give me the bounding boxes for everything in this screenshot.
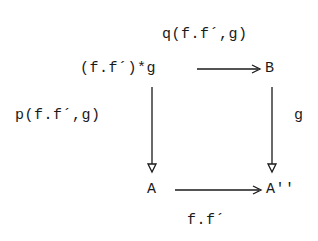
node-top-right: B [265,61,275,77]
bottom-arrow [175,186,261,194]
bottom-edge-label: f.f´ [187,213,225,229]
node-bottom-right: A'' [266,182,295,198]
left-arrow [148,87,156,172]
right-arrow [268,87,276,172]
node-bottom-left: A [147,182,157,198]
top-arrow [197,65,260,73]
right-edge-label: g [294,108,304,124]
node-top-left: (f.f´)*g [80,61,156,77]
top-edge-label: q(f.f´,g) [162,27,248,43]
left-edge-label: p(f.f´,g) [15,108,101,124]
commutative-diagram: q(f.f´,g) (f.f´)*g B p(f.f´,g) g A A'' f… [0,0,318,241]
